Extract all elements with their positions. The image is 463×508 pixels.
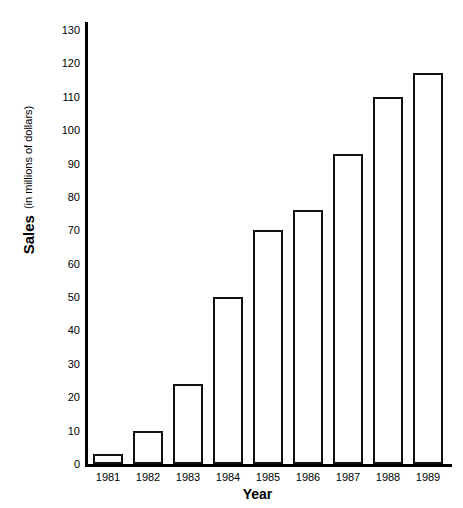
- x-tick-label: 1986: [296, 470, 320, 484]
- y-tick-label: 120: [48, 58, 80, 69]
- x-axis-title-label: Year: [243, 486, 273, 502]
- y-tick-label: 130: [48, 25, 80, 36]
- y-tick-label: 30: [48, 358, 80, 369]
- y-axis-tick-labels: 0102030405060708090100110120130: [48, 0, 80, 508]
- bar-slot: [88, 22, 128, 464]
- bar: [333, 154, 363, 464]
- bar: [413, 73, 443, 464]
- y-tick-label: 110: [48, 91, 80, 102]
- bar: [253, 230, 283, 464]
- bar-slot: [328, 22, 368, 464]
- bar: [173, 384, 203, 464]
- y-axis-title-sub: (in millions of dollars): [22, 106, 34, 209]
- bar: [133, 431, 163, 464]
- x-tick-label: 1982: [136, 470, 160, 484]
- y-tick-label: 20: [48, 392, 80, 403]
- x-tick-label: 1983: [176, 470, 200, 484]
- bar-slot: [168, 22, 208, 464]
- x-tick-label: 1985: [256, 470, 280, 484]
- y-tick-label: 100: [48, 125, 80, 136]
- y-tick-label: 80: [48, 191, 80, 202]
- bar-chart: Sales (in millions of dollars) 010203040…: [0, 0, 463, 508]
- bar: [213, 297, 243, 464]
- y-tick-label: 70: [48, 225, 80, 236]
- x-axis-tick-labels: 198119821983198419851986198719881989: [88, 470, 448, 486]
- bar: [373, 97, 403, 464]
- y-axis-title-main: Sales: [20, 215, 37, 254]
- bar-slot: [408, 22, 448, 464]
- y-tick-label: 0: [48, 459, 80, 470]
- bar-slot: [128, 22, 168, 464]
- y-tick-label: 40: [48, 325, 80, 336]
- y-tick-label: 90: [48, 158, 80, 169]
- x-tick-label: 1981: [96, 470, 120, 484]
- bar-series: [88, 22, 448, 464]
- bar: [93, 454, 123, 464]
- y-tick-label: 60: [48, 258, 80, 269]
- x-tick-label: 1988: [376, 470, 400, 484]
- bar-slot: [248, 22, 288, 464]
- bar: [293, 210, 323, 464]
- x-axis-title: Year: [0, 486, 463, 502]
- y-axis-title: Sales (in millions of dollars): [6, 90, 50, 270]
- y-tick-label: 10: [48, 425, 80, 436]
- x-axis-line: [85, 464, 452, 467]
- x-tick-label: 1987: [336, 470, 360, 484]
- y-tick-label: 50: [48, 292, 80, 303]
- x-tick-label: 1984: [216, 470, 240, 484]
- x-tick-label: 1989: [416, 470, 440, 484]
- bar-slot: [368, 22, 408, 464]
- bar-slot: [288, 22, 328, 464]
- bar-slot: [208, 22, 248, 464]
